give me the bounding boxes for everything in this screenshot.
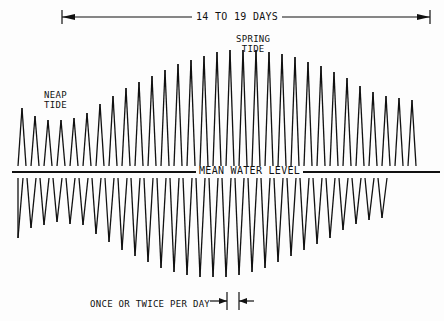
spring-label-line2: TIDE (236, 44, 270, 54)
neap-label-line2: TIDE (44, 100, 67, 110)
tide-wave-plot (0, 0, 444, 321)
span-label: 14 TO 19 DAYS (192, 12, 282, 22)
neap-tide-label: NEAP TIDE (44, 90, 67, 110)
neap-label-line1: NEAP (44, 90, 67, 100)
spring-tide-label: SPRING TIDE (236, 34, 270, 54)
spring-label-line1: SPRING (236, 34, 270, 44)
period-label: ONCE OR TWICE PER DAY (90, 299, 210, 309)
tide-diagram: 14 TO 19 DAYS SPRING TIDE NEAP TIDE MEAN… (0, 0, 444, 321)
mean-water-level-label: MEAN WATER LEVEL (196, 166, 303, 176)
